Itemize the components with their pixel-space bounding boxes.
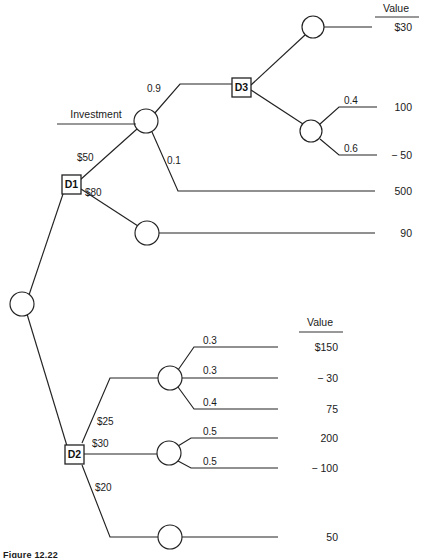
edge-upper-chance-p01: [152, 132, 375, 191]
value-header-bottom: Value: [299, 316, 343, 332]
decision-node-d2[interactable]: D2: [65, 445, 84, 464]
branch-label-p-0-6: 0.6: [344, 143, 358, 154]
edge-chance30-p05b: [178, 461, 278, 468]
terminal-value-bottom-3: 200: [320, 432, 338, 444]
branch-label-cost-80: $80: [85, 187, 102, 198]
terminal-value-top-3: 500: [394, 185, 412, 197]
edge-root-to-d2: [27, 314, 67, 446]
value-header-top: Value: [375, 2, 419, 17]
edge-d3-lower-p04: [320, 107, 377, 124]
decision-node-d3-label: D3: [235, 81, 249, 93]
chance-node-25[interactable]: [158, 366, 182, 390]
terminal-value-bottom-2: 75: [326, 403, 338, 415]
decision-node-d1-label: D1: [65, 178, 79, 190]
branch-label-p-0-4-b: 0.4: [203, 397, 217, 408]
edge-root-to-d1: [29, 191, 64, 295]
terminal-value-bottom-0: $150: [315, 341, 339, 353]
edge-d3-upper: [251, 35, 305, 85]
chance-node-d3-lower[interactable]: [300, 120, 322, 142]
terminal-value-top-1: 100: [394, 101, 412, 113]
chance-node-30[interactable]: [157, 441, 181, 465]
branch-label-p-0-3-b: 0.3: [203, 365, 217, 376]
branch-label-p-0-5-a: 0.5: [203, 426, 217, 437]
decision-node-d3[interactable]: D3: [232, 78, 251, 97]
value-header-top-label: Value: [383, 2, 409, 14]
chance-node-d3-upper[interactable]: [302, 16, 324, 38]
edge-chance25-p03a: [178, 347, 278, 370]
investment-header-label: Investment: [70, 108, 121, 120]
edge-d3-lower: [251, 90, 303, 124]
decision-node-d1[interactable]: D1: [62, 175, 81, 194]
edge-upper-chance-p09: [154, 84, 232, 114]
root-chance-node[interactable]: [10, 292, 34, 316]
branch-label-cost-20: $20: [95, 482, 112, 493]
decision-node-d2-label: D2: [68, 448, 82, 460]
branch-label-p-0-3-a: 0.3: [203, 335, 217, 346]
value-header-bottom-label: Value: [307, 316, 333, 328]
edge-chance30-p05a: [178, 438, 278, 446]
chance-node-20[interactable]: [158, 525, 182, 549]
branch-label-p-0-9: 0.9: [147, 83, 161, 94]
edge-d2-cost25: [82, 378, 158, 443]
branch-label-cost-50: $50: [77, 152, 94, 163]
terminal-value-bottom-1: − 30: [317, 372, 338, 384]
branch-label-cost-25: $25: [97, 416, 114, 427]
investment-header: Investment: [57, 108, 136, 124]
branch-label-p-0-5-b: 0.5: [203, 456, 217, 467]
figure-caption: Figure 12.22: [3, 550, 58, 558]
terminal-value-top-4: 90: [400, 227, 412, 239]
branch-label-p-0-4: 0.4: [344, 95, 358, 106]
chance-node-upper[interactable]: [134, 109, 158, 133]
chance-node-80[interactable]: [135, 221, 159, 245]
edge-chance25-p04: [178, 387, 278, 409]
terminal-value-bottom-4: − 100: [311, 462, 338, 474]
branch-label-cost-30: $30: [92, 438, 109, 449]
terminal-value-top-2: − 50: [391, 149, 412, 161]
branch-label-p-0-1: 0.1: [167, 155, 181, 166]
terminal-value-bottom-5: 50: [326, 531, 338, 543]
edge-d2-cost20: [82, 465, 158, 537]
terminal-value-top-0: $30: [394, 21, 412, 33]
